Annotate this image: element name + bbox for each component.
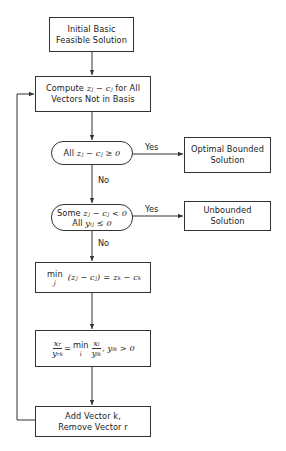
ratio-test-box: xᵣ yᵣₖ = min i xᵢ yᵢₖ , yᵢₖ > 0 bbox=[35, 330, 151, 367]
start-box: Initial Basic Feasible Solution bbox=[49, 17, 134, 52]
start-line2: Feasible Solution bbox=[56, 35, 127, 46]
unbounded-solution-box: Unbounded Solution bbox=[184, 201, 271, 231]
edge-pivot-loop-compute bbox=[17, 94, 35, 420]
fraction-rhs: xᵢ yᵢₖ bbox=[92, 339, 102, 358]
yes-label-unbounded: Yes bbox=[145, 204, 158, 214]
min-operator-i: min i bbox=[73, 340, 89, 357]
compute-line2: Vectors Not in Basis bbox=[51, 94, 134, 105]
start-line1: Initial Basic bbox=[67, 24, 115, 35]
no-label-optimal: No bbox=[98, 175, 109, 185]
fraction-lhs: xᵣ yᵣₖ bbox=[52, 339, 63, 358]
entering-vector-box: min j (zⱼ − cⱼ) = zₖ − cₖ bbox=[35, 262, 151, 293]
min-operator-j: min j bbox=[47, 269, 63, 286]
no-label-unbounded: No bbox=[98, 238, 109, 248]
decision-unbounded: Some zⱼ − cⱼ < 0 All yᵢⱼ ≤ 0 bbox=[51, 204, 133, 231]
compute-line1: Compute zⱼ − cⱼ for All bbox=[46, 83, 140, 94]
pivot-box: Add Vector k, Remove Vector r bbox=[35, 406, 151, 437]
compute-expr: zⱼ − cⱼ bbox=[87, 83, 113, 93]
optimal-solution-box: Optimal Bounded Solution bbox=[184, 137, 271, 173]
decision-optimal-expr: zⱼ − cⱼ ≥ 0 bbox=[77, 148, 121, 158]
compute-box: Compute zⱼ − cⱼ for All Vectors Not in B… bbox=[35, 76, 151, 112]
yes-label-optimal: Yes bbox=[145, 142, 158, 152]
decision-optimal: All zⱼ − cⱼ ≥ 0 bbox=[51, 141, 133, 165]
